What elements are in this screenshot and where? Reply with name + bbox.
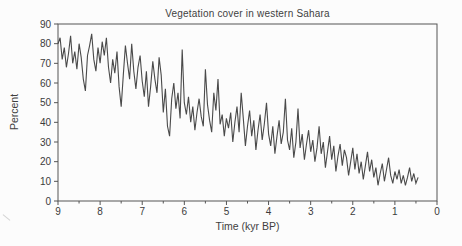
page: { "title": "Vegetation cover in western …	[0, 0, 462, 246]
y-tick-label: 70	[40, 58, 52, 69]
x-axis-label: Time (kyr BP)	[58, 220, 437, 232]
y-tick-label: 10	[40, 176, 52, 187]
y-tick-label: 0	[45, 196, 51, 207]
y-tick-label: 90	[40, 19, 52, 30]
y-tick-label: 30	[40, 137, 52, 148]
y-tick-label: 20	[40, 156, 52, 167]
vegetation-chart-figure: Vegetation cover in western Sahara 01020…	[0, 0, 462, 246]
x-tick-label: 0	[434, 206, 440, 217]
y-tick-label: 80	[40, 38, 52, 49]
y-tick-label: 40	[40, 117, 52, 128]
chart-plot-area: 01020304050607080909876543210	[0, 0, 462, 246]
x-tick-label: 7	[139, 206, 145, 217]
x-tick-label: 9	[55, 206, 61, 217]
y-tick-label: 50	[40, 97, 52, 108]
x-tick-label: 6	[182, 206, 188, 217]
x-tick-label: 4	[266, 206, 272, 217]
x-tick-label: 1	[392, 206, 398, 217]
x-tick-label: 2	[350, 206, 356, 217]
x-tick-label: 3	[308, 206, 314, 217]
y-tick-label: 60	[40, 78, 52, 89]
x-tick-label: 5	[224, 206, 230, 217]
vegetation-cover-line	[58, 34, 418, 186]
x-tick-label: 8	[97, 206, 103, 217]
y-axis-label: Percent	[8, 94, 20, 130]
